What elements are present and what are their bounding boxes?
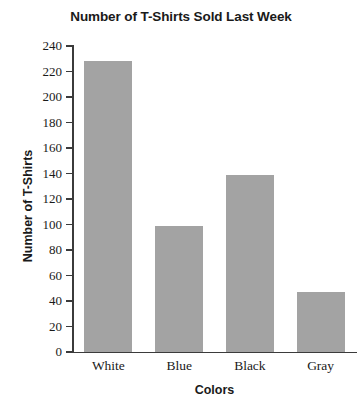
y-axis-tick [66, 198, 73, 199]
y-axis-tick-label: 200 [22, 90, 62, 103]
y-axis-tick-labels: 020406080100120140160180200220240 [18, 0, 62, 413]
y-axis-tick [66, 351, 73, 352]
y-axis-tick-label: 140 [22, 167, 62, 180]
y-axis-tick [66, 147, 73, 148]
plot-area [73, 46, 356, 352]
y-axis-tick [66, 326, 73, 327]
y-axis-tick [66, 45, 73, 46]
y-axis-tick [66, 224, 73, 225]
y-axis-tick [66, 71, 73, 72]
bar-chart: Number of T-Shirts Sold Last Week Number… [0, 0, 362, 413]
x-axis-title: Colors [73, 383, 356, 397]
y-axis-tick-label: 180 [22, 116, 62, 129]
y-axis-tick [66, 96, 73, 97]
y-axis-tick [66, 173, 73, 174]
x-axis-tick-label: White [73, 358, 144, 374]
y-axis-tick-label: 20 [22, 320, 62, 333]
y-axis-tick-label: 60 [22, 269, 62, 282]
y-axis-tick-label: 0 [22, 345, 62, 358]
y-axis-tick-label: 120 [22, 192, 62, 205]
x-axis-tick-label: Black [215, 358, 286, 374]
x-axis-tick-label: Blue [144, 358, 215, 374]
y-axis-tick-label: 80 [22, 243, 62, 256]
y-axis-tick [66, 249, 73, 250]
bar-blue [155, 226, 203, 352]
y-axis-tick-label: 160 [22, 141, 62, 154]
y-axis-tick [66, 275, 73, 276]
bar-black [226, 175, 274, 352]
y-axis-tick-label: 100 [22, 218, 62, 231]
y-axis-tick [66, 300, 73, 301]
bar-white [84, 61, 132, 352]
bar-gray [297, 292, 345, 352]
y-axis-tick-label: 220 [22, 65, 62, 78]
y-axis-tick-label: 240 [22, 39, 62, 52]
y-axis-tick-label: 40 [22, 294, 62, 307]
x-axis-tick-label: Gray [285, 358, 356, 374]
y-axis-tick [66, 122, 73, 123]
